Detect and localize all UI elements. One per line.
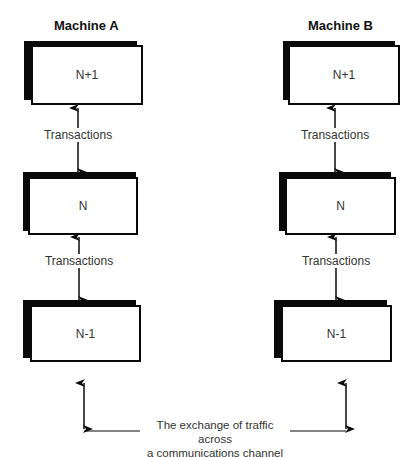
channel-caption-line-1: The exchange of traffic across <box>140 418 290 446</box>
transactions-label-b-lower: Transactions <box>301 254 371 268</box>
channel-caption: The exchange of traffic across a communi… <box>140 418 290 457</box>
machine-a-title: Machine A <box>54 18 119 33</box>
machine-b-title: Machine B <box>308 18 373 33</box>
channel-caption-line-2: a communications channel <box>140 446 290 457</box>
transactions-label-a-lower: Transactions <box>44 254 114 268</box>
transactions-label-a-upper: Transactions <box>43 128 113 142</box>
transactions-label-b-upper: Transactions <box>300 128 370 142</box>
